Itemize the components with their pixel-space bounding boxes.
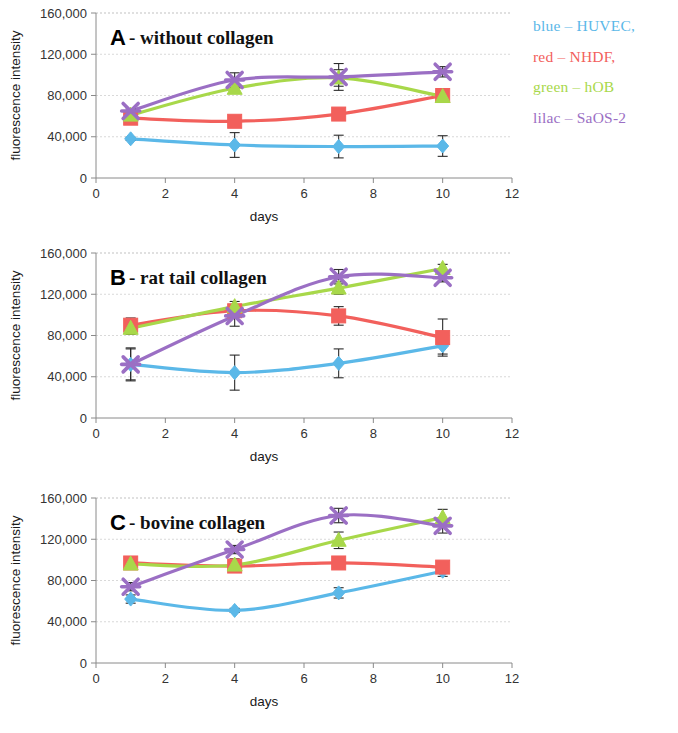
x-tick-label: 6 <box>300 186 307 201</box>
y-tick-label: 40,000 <box>47 614 87 629</box>
chart-panel-b: 040,00080,000120,000160,000024681012days… <box>0 240 530 473</box>
data-point-nhdf <box>332 309 346 323</box>
panel-title: - without collagen <box>129 27 274 48</box>
x-tick-label: 2 <box>162 186 169 201</box>
data-point-huvec <box>333 356 345 370</box>
data-point-nhdf <box>332 107 346 121</box>
x-axis-title: days <box>250 694 279 709</box>
x-tick-label: 6 <box>300 671 307 686</box>
y-tick-label: 160,000 <box>40 6 87 21</box>
x-tick-label: 2 <box>162 671 169 686</box>
data-point-huvec <box>229 603 241 617</box>
series-line-nhdf <box>131 310 443 337</box>
series-line-huvec <box>131 346 443 373</box>
x-tick-label: 4 <box>231 426 238 441</box>
x-tick-label: 8 <box>370 426 377 441</box>
y-axis-title: fluorescence intensity <box>8 270 23 400</box>
data-point-huvec <box>125 132 137 146</box>
x-tick-label: 2 <box>162 426 169 441</box>
series-line-huvec <box>131 571 443 610</box>
chart-svg-b: 040,00080,000120,000160,000024681012days… <box>0 240 530 473</box>
y-axis-title: fluorescence intensity <box>8 515 23 645</box>
series-line-nhdf <box>131 96 443 122</box>
legend-label-nhdf: red – NHDF, <box>533 48 615 65</box>
x-tick-label: 0 <box>92 671 99 686</box>
x-tick-label: 4 <box>231 671 238 686</box>
data-point-saos-2 <box>226 542 244 557</box>
data-point-huvec <box>229 138 241 152</box>
legend-item-saos2: lilac – SaOS-2 <box>533 110 678 126</box>
chart-panel-c: 040,00080,000120,000160,000024681012days… <box>0 485 530 718</box>
chart-svg-c: 040,00080,000120,000160,000024681012days… <box>0 485 530 718</box>
x-tick-label: 12 <box>505 671 519 686</box>
figure-root: 040,00080,000120,000160,000024681012days… <box>0 0 678 733</box>
panel-letter: B <box>110 265 126 290</box>
data-point-huvec <box>437 139 449 153</box>
chart-svg-a: 040,00080,000120,000160,000024681012days… <box>0 0 530 233</box>
y-tick-label: 0 <box>80 411 87 426</box>
legend-label-saos2: lilac – SaOS-2 <box>533 109 626 126</box>
panel-title: - rat tail collagen <box>129 267 267 288</box>
panel-letter: C <box>110 510 126 535</box>
x-tick-label: 8 <box>370 671 377 686</box>
data-point-nhdf <box>436 560 450 574</box>
panel-letter: A <box>110 25 126 50</box>
y-axis-title: fluorescence intensity <box>8 30 23 160</box>
y-tick-label: 120,000 <box>40 47 87 62</box>
x-tick-label: 10 <box>435 426 449 441</box>
y-tick-label: 160,000 <box>40 246 87 261</box>
y-tick-label: 40,000 <box>47 369 87 384</box>
y-tick-label: 120,000 <box>40 532 87 547</box>
data-point-nhdf <box>228 114 242 128</box>
x-axis-title: days <box>250 209 279 224</box>
y-tick-label: 40,000 <box>47 129 87 144</box>
data-point-nhdf <box>436 331 450 345</box>
y-tick-label: 80,000 <box>47 88 87 103</box>
x-tick-label: 8 <box>370 186 377 201</box>
y-tick-label: 120,000 <box>40 287 87 302</box>
series-line-huvec <box>131 139 443 147</box>
x-tick-label: 12 <box>505 426 519 441</box>
legend-label-huvec: blue – HUVEC, <box>533 17 635 34</box>
x-tick-label: 10 <box>435 671 449 686</box>
y-tick-label: 80,000 <box>47 573 87 588</box>
data-point-nhdf <box>332 556 346 570</box>
chart-panel-a: 040,00080,000120,000160,000024681012days… <box>0 0 530 233</box>
x-tick-label: 0 <box>92 186 99 201</box>
y-tick-label: 0 <box>80 171 87 186</box>
data-point-huvec <box>229 366 241 380</box>
panel-title: - bovine collagen <box>129 512 266 533</box>
x-tick-label: 6 <box>300 426 307 441</box>
x-tick-label: 0 <box>92 426 99 441</box>
x-tick-label: 4 <box>231 186 238 201</box>
x-tick-label: 10 <box>435 186 449 201</box>
legend-item-nhdf: red – NHDF, <box>533 49 678 65</box>
x-tick-label: 12 <box>505 186 519 201</box>
figure-legend: blue – HUVEC, red – NHDF, green – hOB li… <box>533 18 678 140</box>
legend-label-hob: green – hOB <box>533 78 614 95</box>
y-tick-label: 160,000 <box>40 491 87 506</box>
y-tick-label: 0 <box>80 656 87 671</box>
legend-item-hob: green – hOB <box>533 79 678 95</box>
data-point-huvec <box>333 140 345 154</box>
y-tick-label: 80,000 <box>47 328 87 343</box>
x-axis-title: days <box>250 449 279 464</box>
legend-item-huvec: blue – HUVEC, <box>533 18 678 34</box>
data-point-huvec <box>125 592 137 606</box>
